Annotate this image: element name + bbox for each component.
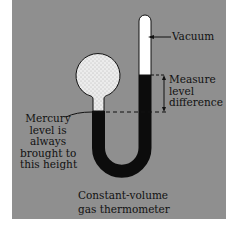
diagram-caption: Constant-volume gas thermometer: [78, 188, 164, 216]
vacuum-label-text: Vacuum: [172, 31, 214, 43]
mercury-label: Mercury level is always brought to this …: [20, 113, 76, 171]
measure-label: Measure level difference: [169, 74, 223, 109]
mercury-label-line5: this height: [20, 159, 76, 171]
vacuum-tube-icon: [139, 15, 151, 75]
measure-label-line3: difference: [169, 97, 223, 109]
gas-bulb-icon: [76, 54, 120, 111]
mercury-label-line3: always: [20, 136, 76, 148]
vacuum-label: Vacuum: [172, 31, 214, 43]
mercury-label-line1: Mercury: [20, 113, 76, 125]
caption-line2: gas thermometer: [78, 202, 164, 216]
caption-line1: Constant-volume: [78, 188, 164, 202]
measure-arrow-icon: [162, 75, 166, 112]
measure-label-line1: Measure: [169, 74, 223, 86]
